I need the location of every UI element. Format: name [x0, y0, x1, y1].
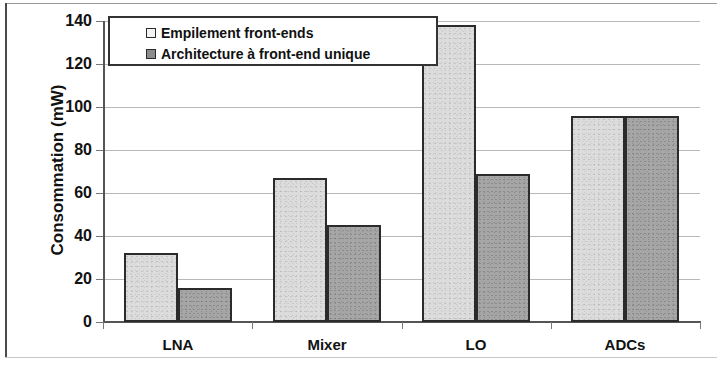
x-axis-tick-mark [402, 322, 403, 329]
x-axis-tick-mark [252, 322, 253, 329]
legend-swatch-icon-series2 [146, 49, 156, 59]
bar-adcs-series1 [571, 116, 625, 322]
y-axis-tick-label: 60 [28, 184, 92, 202]
page-frame-left-rule [5, 3, 7, 358]
x-axis-tick-mark [700, 322, 701, 329]
x-axis-label-lna: LNA [98, 336, 258, 353]
bar-lo-series2 [476, 174, 530, 322]
gridline [103, 107, 700, 108]
bar-mixer-series1 [273, 178, 327, 322]
legend-entry-series2: Architecture à front-end unique [146, 44, 436, 64]
x-axis-label-lo: LO [396, 336, 556, 353]
y-axis-tick-label: 80 [28, 141, 92, 159]
bar-adcs-series2 [625, 116, 679, 322]
bar-lna-series2 [178, 288, 232, 322]
bar-lna-series1 [124, 253, 178, 322]
y-axis-tick-label: 140 [28, 12, 92, 30]
legend-entry-series1: Empilement front-ends [146, 23, 436, 43]
chart-legend: Empilement front-ends Architecture à fro… [108, 16, 438, 66]
legend-label-series2: Architecture à front-end unique [161, 46, 370, 62]
legend-label-series1: Empilement front-ends [161, 25, 313, 41]
y-axis-tick-label: 40 [28, 227, 92, 245]
page-frame-top-rule [5, 3, 717, 4]
y-axis-line [103, 21, 105, 323]
page-frame-bottom-rule [5, 357, 717, 358]
chart-figure: Consommation (mW) 020406080100120140 LNA… [0, 0, 721, 379]
x-axis-label-adcs: ADCs [545, 336, 705, 353]
y-axis-tick-label: 100 [28, 98, 92, 116]
x-axis-tick-mark [551, 322, 552, 329]
y-axis-tick-label: 0 [28, 313, 92, 331]
x-axis-tick-mark [103, 322, 104, 329]
bar-lo-series1 [422, 25, 476, 322]
y-axis-tick-label: 20 [28, 270, 92, 288]
x-axis-label-mixer: Mixer [247, 336, 407, 353]
y-axis-tick-label: 120 [28, 55, 92, 73]
legend-swatch-icon-series1 [146, 28, 156, 38]
bar-mixer-series2 [327, 225, 381, 322]
